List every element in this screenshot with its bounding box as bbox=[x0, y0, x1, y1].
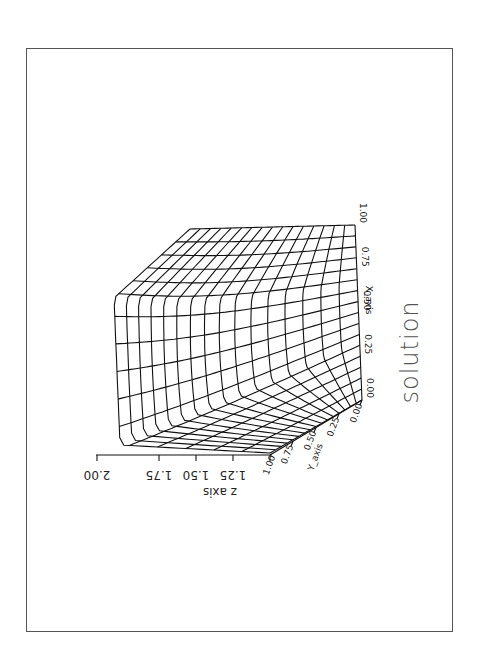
mesh-line bbox=[205, 227, 311, 429]
x-tick-label: 0.00 bbox=[365, 378, 375, 398]
y-tick-label: 0.00 bbox=[348, 402, 364, 425]
x-tick-label: 0.25 bbox=[363, 334, 373, 354]
x-tick-label: 0.75 bbox=[360, 247, 370, 267]
mesh-line bbox=[303, 226, 345, 410]
wireframe-mesh bbox=[114, 225, 362, 453]
chart-title: solution bbox=[396, 300, 424, 403]
z-axis-label: z axis bbox=[203, 485, 237, 499]
z-tick-label: 1.00 bbox=[261, 454, 277, 477]
x-axis-label: X_axis bbox=[364, 286, 374, 315]
z-tick-label: 1.50 bbox=[183, 468, 210, 482]
mesh-line bbox=[190, 225, 355, 229]
z-tick-label: 2.00 bbox=[84, 468, 111, 482]
z-tick-label: 1.75 bbox=[146, 468, 173, 482]
z-axis: 1.001.251.501.752.00 z axis bbox=[84, 454, 278, 499]
z-tick-label: 1.25 bbox=[220, 468, 247, 482]
mesh-line bbox=[139, 229, 282, 447]
y-tick-label: 0.25 bbox=[325, 416, 341, 438]
surface-plot: 1.001.251.501.752.00 z axis 0.000.250.50… bbox=[0, 0, 483, 669]
mesh-line bbox=[285, 226, 339, 413]
mesh-line bbox=[251, 227, 328, 420]
x-tick-label: 1.00 bbox=[358, 203, 368, 223]
